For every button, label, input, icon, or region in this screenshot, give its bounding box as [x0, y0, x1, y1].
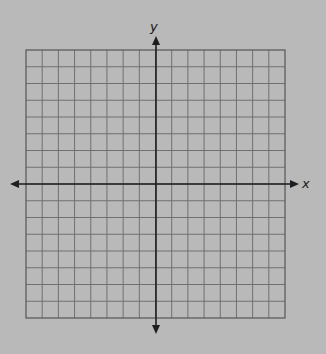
y-axis-label: y — [150, 20, 158, 33]
x-axis-right-arrow-icon — [290, 180, 299, 188]
y-axis-down-arrow-icon — [152, 325, 160, 334]
x-axis-label: x — [302, 177, 310, 190]
y-axis-up-arrow-icon — [152, 36, 160, 45]
x-axis-left-arrow-icon — [10, 180, 19, 188]
coordinate-plane — [0, 0, 326, 354]
